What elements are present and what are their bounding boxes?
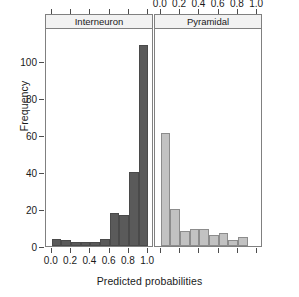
x-tick-label: 1.0 — [140, 255, 154, 266]
panel-strip-label-interneuron: Interneuron — [75, 17, 124, 27]
x-tick-mark — [147, 248, 148, 253]
x-tick-label: 0.0 — [44, 255, 58, 266]
x-tick-mark — [198, 9, 199, 14]
x-axis-title: Predicted probabilities — [0, 275, 299, 287]
x-tick-row — [154, 9, 262, 14]
x-tick-row — [45, 248, 153, 253]
bar-series-interneuron — [46, 29, 152, 246]
x-tick-label: 0.0 — [153, 0, 167, 9]
histogram-bar — [228, 240, 238, 246]
histogram-bar — [61, 240, 71, 246]
histogram-bar — [119, 215, 129, 246]
x-tick-label: 0.8 — [230, 0, 244, 9]
x-tick-mark — [256, 248, 257, 253]
y-tick-mark — [39, 136, 44, 137]
y-tick-label: 100 — [20, 57, 37, 68]
x-tick-label: 0.6 — [102, 255, 116, 266]
x-tick-mark — [128, 248, 129, 253]
x-tick-mark — [198, 248, 199, 253]
histogram-bar — [209, 235, 219, 246]
y-tick-label: 60 — [26, 131, 37, 142]
x-tick-mark — [160, 248, 161, 253]
bar-series-pyramidal — [155, 29, 261, 246]
histogram-bar — [161, 133, 171, 246]
x-tick-mark — [179, 9, 180, 14]
histogram-bar — [71, 242, 81, 246]
x-tick-label: 0.8 — [121, 255, 135, 266]
histogram-bar — [139, 45, 149, 246]
y-tick-label: 20 — [26, 205, 37, 216]
x-tick-mark — [147, 9, 148, 14]
panel-strip-label-pyramidal: Pyramidal — [187, 17, 229, 27]
histogram-bar — [219, 233, 229, 246]
y-tick-mark — [39, 62, 44, 63]
x-tick-label: 0.4 — [191, 0, 205, 9]
histogram-bar — [90, 242, 100, 246]
x-tick-mark — [256, 9, 257, 14]
x-tick-label: 0.2 — [172, 0, 186, 9]
histogram-bar — [100, 239, 110, 246]
x-tick-mark — [51, 248, 52, 253]
histogram-bar — [129, 172, 139, 246]
panel-interneuron: Interneuron — [45, 14, 153, 247]
panel-pyramidal: Pyramidal — [154, 14, 262, 247]
x-tick-label: 0.2 — [63, 255, 77, 266]
x-tick-mark — [109, 248, 110, 253]
x-tick-mark — [160, 9, 161, 14]
panel-strip-interneuron: Interneuron — [45, 14, 153, 29]
y-tick-mark — [39, 99, 44, 100]
plot-area-pyramidal — [154, 29, 262, 247]
x-tick-mark — [237, 248, 238, 253]
x-tick-mark — [179, 248, 180, 253]
histogram-bar — [238, 237, 248, 246]
histogram-bar — [180, 231, 190, 246]
histogram-bar — [190, 229, 200, 246]
y-tick-mark — [39, 247, 44, 248]
x-tick-mark — [109, 9, 110, 14]
y-axis: 020406080100 — [0, 0, 45, 297]
x-tick-label: 0.6 — [211, 0, 225, 9]
histogram-bar — [170, 209, 180, 246]
y-tick-mark — [39, 210, 44, 211]
x-tick-mark — [70, 248, 71, 253]
x-tick-mark — [218, 9, 219, 14]
y-tick-label: 0 — [31, 242, 37, 253]
y-tick-mark — [39, 173, 44, 174]
x-tick-mark — [51, 9, 52, 14]
histogram-bar — [81, 242, 91, 246]
x-tick-mark — [237, 9, 238, 14]
y-tick-label: 80 — [26, 94, 37, 105]
histogram-bar — [110, 213, 120, 246]
x-tick-label: 1.0 — [249, 0, 263, 9]
x-tick-mark — [89, 9, 90, 14]
y-tick-label: 40 — [26, 168, 37, 179]
x-tick-mark — [218, 248, 219, 253]
histogram-bar — [52, 239, 62, 246]
x-tick-mark — [128, 9, 129, 14]
x-tick-row — [45, 9, 153, 14]
x-tick-mark — [89, 248, 90, 253]
x-tick-mark — [70, 9, 71, 14]
histogram-bar — [199, 229, 209, 246]
plot-area-interneuron — [45, 29, 153, 247]
x-tick-label: 0.4 — [82, 255, 96, 266]
histogram-figure: Frequency 020406080100 Interneuron Pyram… — [0, 0, 299, 297]
x-tick-row — [154, 248, 262, 253]
panel-strip-pyramidal: Pyramidal — [154, 14, 262, 29]
